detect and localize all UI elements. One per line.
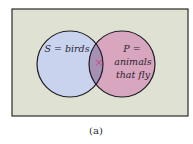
set-p-label-line-3: that fly bbox=[116, 69, 151, 80]
set-s-label: S = birds bbox=[44, 43, 89, 54]
set-p-label-line-2: animals bbox=[114, 56, 152, 67]
intersection-marker-x-icon: × bbox=[94, 56, 103, 69]
figure-caption: (a) bbox=[89, 125, 103, 136]
venn-diagram: S = birds P = animals that fly × (a) bbox=[0, 0, 193, 144]
set-p-label-line-1: P = bbox=[122, 43, 140, 54]
